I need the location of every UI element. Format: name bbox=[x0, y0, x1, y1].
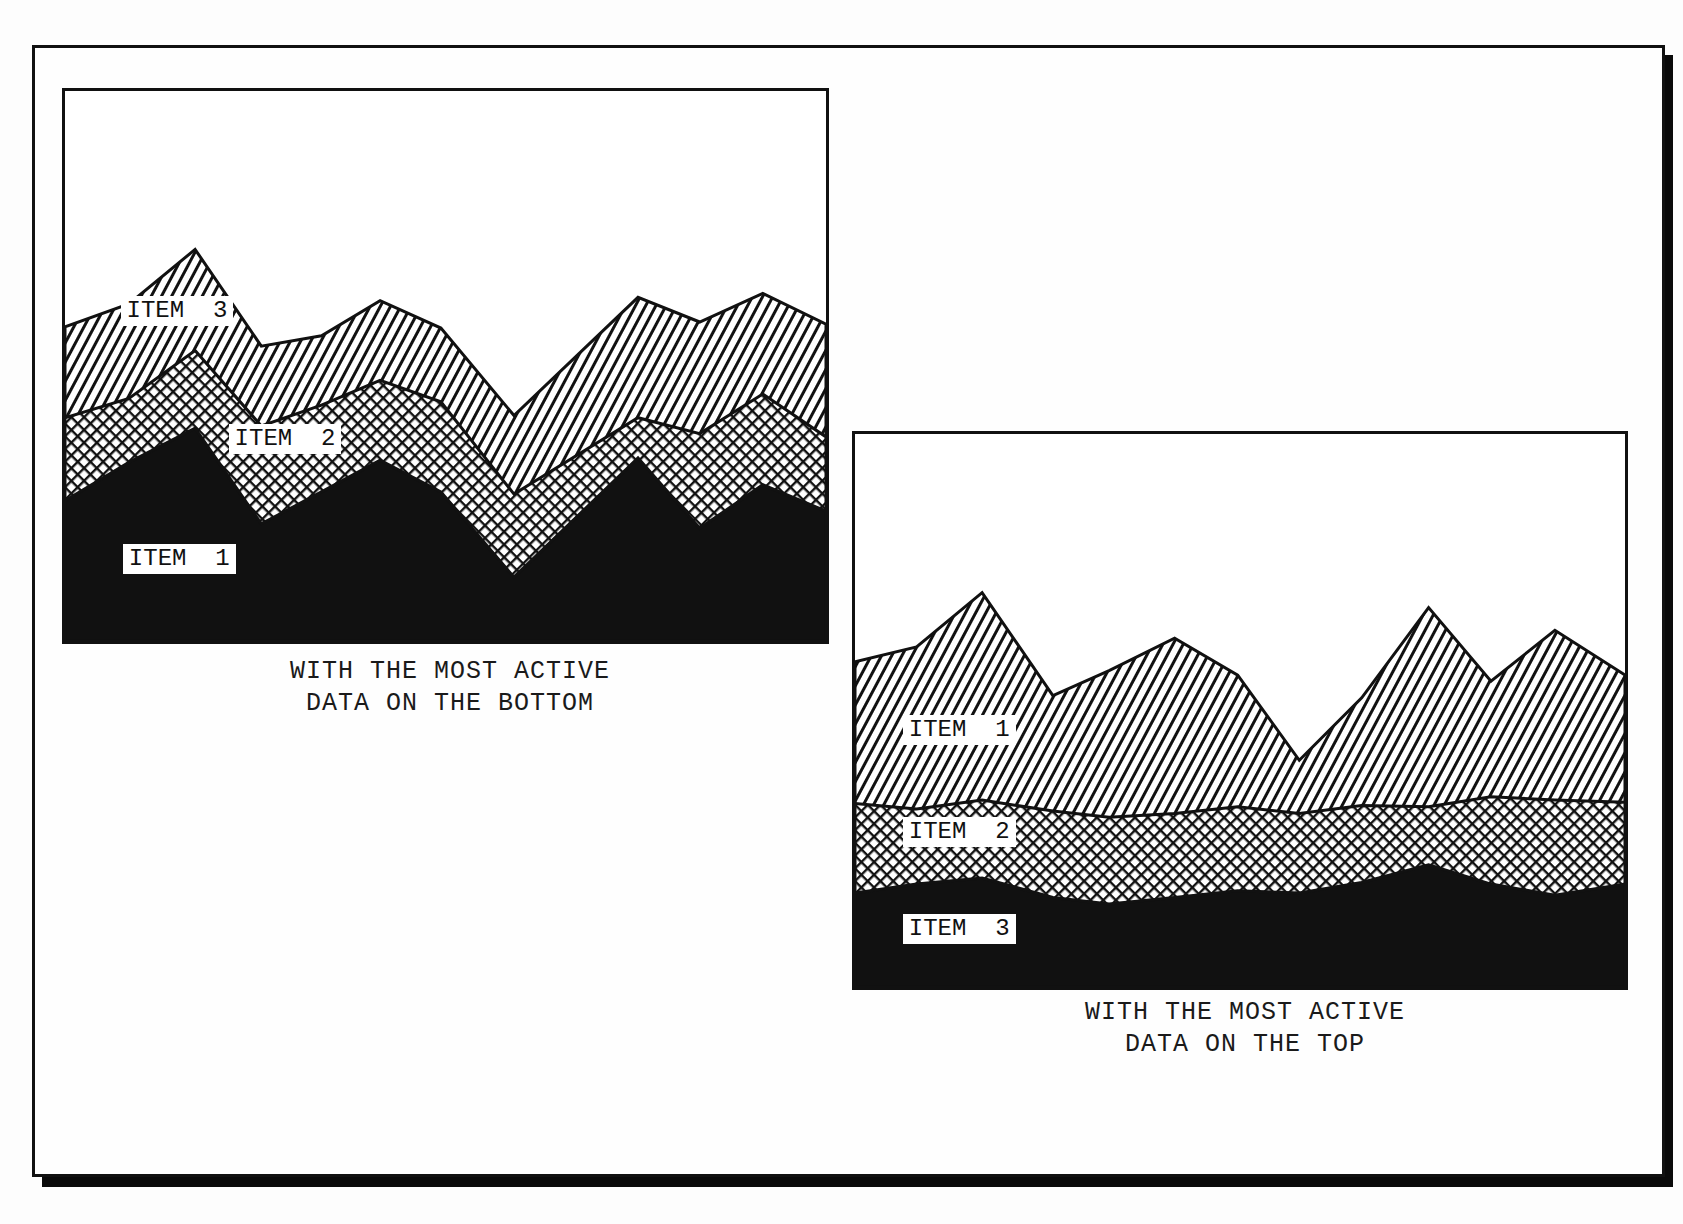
caption-line-2: DATA ON THE BOTTOM bbox=[245, 688, 655, 720]
series-label-item-1: ITEM 1 bbox=[123, 544, 236, 574]
caption-line-1: WITH THE MOST ACTIVE bbox=[245, 656, 655, 688]
series-label-item-3: ITEM 3 bbox=[121, 296, 234, 326]
caption-most-active-top: WITH THE MOST ACTIVE DATA ON THE TOP bbox=[1040, 997, 1450, 1061]
caption-most-active-bottom: WITH THE MOST ACTIVE DATA ON THE BOTTOM bbox=[245, 656, 655, 720]
caption-line-2: DATA ON THE TOP bbox=[1040, 1029, 1450, 1061]
chart-most-active-bottom: ITEM 3 ITEM 2 ITEM 1 bbox=[62, 88, 829, 644]
series-label-item-1: ITEM 1 bbox=[903, 715, 1016, 745]
series-label-item-2: ITEM 2 bbox=[903, 817, 1016, 847]
series-label-item-3: ITEM 3 bbox=[903, 914, 1016, 944]
chart-most-active-top: ITEM 1 ITEM 2 ITEM 3 bbox=[852, 431, 1628, 990]
stacked-area-plot bbox=[855, 434, 1625, 987]
series-label-item-2: ITEM 2 bbox=[229, 424, 342, 454]
caption-line-1: WITH THE MOST ACTIVE bbox=[1040, 997, 1450, 1029]
